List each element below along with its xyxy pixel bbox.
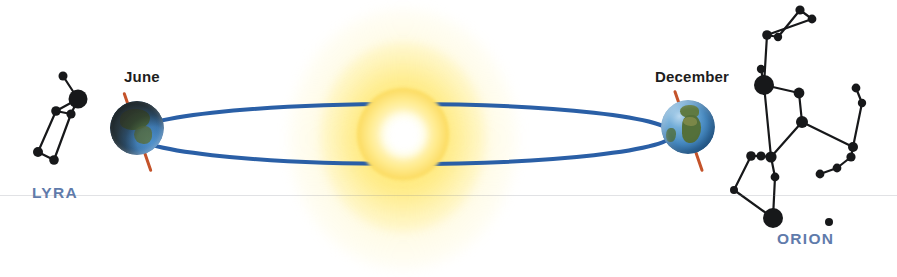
constellation-line [764,85,771,157]
orbit-diagram-scene: LYRA ORION June December [0,0,897,277]
constellation-line [853,103,862,147]
star-orion-7 [796,116,808,128]
star-orion-13 [852,84,861,93]
star-orion-0 [795,5,804,14]
star-orion-1 [808,15,817,24]
star-orion-15 [848,142,858,152]
constellation-line [771,122,802,157]
star-orion-6 [794,88,805,99]
earth-june-globe [110,101,164,155]
constellation-line [734,156,751,190]
star-orion-16 [846,152,855,161]
star-orion-4 [757,65,765,73]
month-label-june: June [124,68,160,85]
star-orion-2 [762,30,772,40]
star-orion-18 [816,170,825,179]
earth-december-globe [661,100,715,154]
scan-seam-line [0,195,897,196]
star-orion-12 [763,208,783,228]
constellation-line [802,122,853,147]
star-orion-3 [774,33,782,41]
star-orion-17 [833,164,842,173]
star-orion-10 [765,151,776,162]
star-orion-5 [754,75,774,95]
star-orion-9 [756,151,765,160]
star-orion-20 [730,186,738,194]
star-orion-11 [771,173,780,182]
star-orion-19 [825,218,833,226]
star-orion-8 [746,151,756,161]
constellation-label-orion: ORION [777,230,834,248]
star-orion-14 [858,99,866,107]
earth-june [106,92,168,172]
earth-december [656,90,720,172]
month-label-december: December [655,68,729,85]
earth-june-rim-shading [110,101,164,155]
earth-december-rim-shading [661,100,715,154]
